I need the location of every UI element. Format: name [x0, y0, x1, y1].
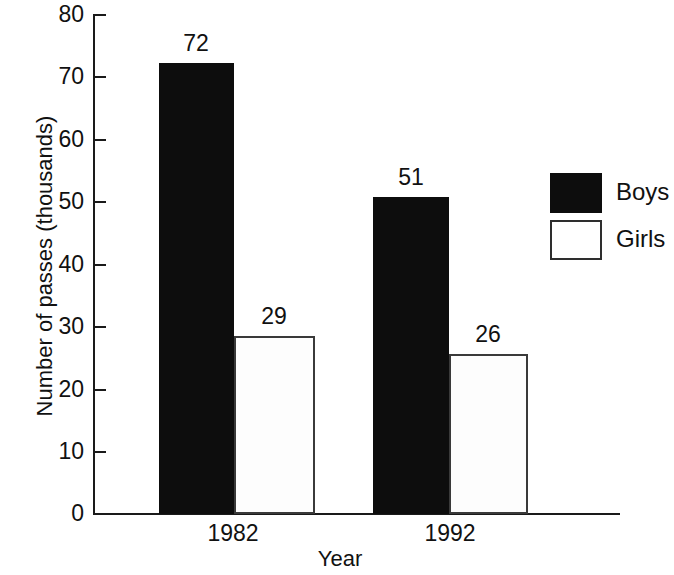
legend-swatch-girls — [550, 220, 602, 260]
x-axis-category-1992: 1992 — [370, 522, 530, 545]
bar-boys-1982 — [159, 63, 234, 514]
y-tick-20 — [93, 389, 106, 391]
y-tick-80 — [93, 14, 106, 16]
bar-value-girls-1992: 26 — [443, 323, 533, 346]
y-tick-label-20: 20 — [26, 378, 84, 401]
legend-label-girls: Girls — [616, 227, 665, 251]
bar-boys-1992 — [373, 197, 449, 514]
y-tick-label-70: 70 — [26, 65, 84, 88]
y-tick-label-60: 60 — [26, 128, 84, 151]
y-tick-50 — [93, 201, 106, 203]
bar-girls-1992 — [449, 354, 528, 514]
y-tick-10 — [93, 451, 106, 453]
y-tick-30 — [93, 326, 106, 328]
bar-value-boys-1982: 72 — [151, 32, 241, 55]
legend-swatch-boys — [550, 173, 602, 213]
y-tick-label-10: 10 — [26, 440, 84, 463]
legend-label-boys: Boys — [616, 180, 669, 204]
y-tick-60 — [93, 139, 106, 141]
bar-girls-1982 — [234, 336, 315, 514]
y-tick-0 — [93, 513, 106, 515]
y-tick-label-80: 80 — [26, 3, 84, 26]
bar-value-girls-1982: 29 — [229, 305, 319, 328]
y-tick-label-40: 40 — [26, 253, 84, 276]
x-axis-category-1982: 1982 — [153, 522, 313, 545]
x-axis-title: Year — [250, 548, 430, 570]
y-tick-70 — [93, 76, 106, 78]
y-tick-label-30: 30 — [26, 315, 84, 338]
y-tick-40 — [93, 264, 106, 266]
y-tick-label-0: 0 — [26, 502, 84, 525]
y-tick-label-50: 50 — [26, 190, 84, 213]
bar-chart: Number of passes (thousands) 80 70 60 50… — [0, 0, 674, 575]
bar-value-boys-1992: 51 — [366, 166, 456, 189]
